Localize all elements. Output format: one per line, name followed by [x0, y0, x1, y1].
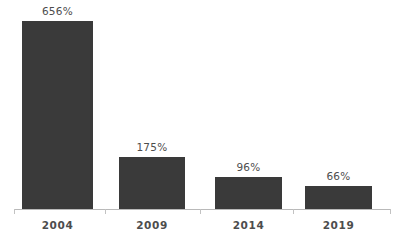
x-axis-label-2019: 2019: [305, 219, 372, 231]
x-axis-tick-2: [200, 209, 201, 214]
x-axis-label-2009: 2009: [119, 219, 185, 231]
x-axis-tick-1: [105, 209, 106, 214]
bar-2014[interactable]: [215, 177, 282, 209]
bar-chart: 656% 175% 96% 66% 2004 2009 2014 2019: [0, 0, 402, 241]
x-axis-label-2014: 2014: [215, 219, 282, 231]
x-axis-tick-0: [14, 209, 15, 214]
bar-value-label-2014: 96%: [215, 161, 282, 173]
bar-2004[interactable]: [22, 21, 93, 209]
x-axis-label-2004: 2004: [22, 219, 93, 231]
plot-area: 656% 175% 96% 66% 2004 2009 2014 2019: [0, 0, 402, 241]
bar-2019[interactable]: [305, 186, 372, 209]
bar-2009[interactable]: [119, 157, 185, 209]
bar-value-label-2019: 66%: [305, 170, 372, 182]
x-axis-line: [14, 209, 391, 210]
x-axis-tick-4: [390, 209, 391, 214]
x-axis-tick-3: [293, 209, 294, 214]
bar-value-label-2009: 175%: [119, 141, 185, 153]
bar-value-label-2004: 656%: [22, 5, 93, 17]
